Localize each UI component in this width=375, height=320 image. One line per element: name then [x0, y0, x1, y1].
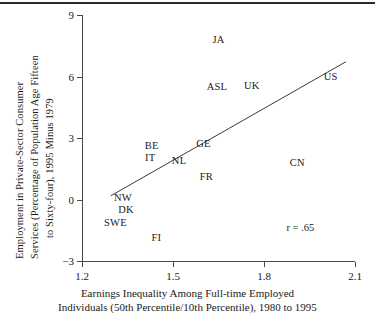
data-point-label-uk: UK	[244, 79, 260, 90]
y-tick-label: 3	[69, 132, 75, 144]
data-point-label-nl: NL	[172, 154, 186, 165]
x-tick-label: 2.1	[348, 270, 362, 282]
x-tick-label: 1.2	[75, 270, 89, 282]
data-point-label-nw: NW	[114, 192, 132, 203]
y-axis-title-line-1: Employment in Private-Sector Consumer	[15, 82, 26, 259]
x-axis-line	[82, 261, 355, 262]
x-tick-mark	[173, 262, 174, 267]
x-tick-mark	[82, 262, 83, 267]
x-tick-mark	[264, 262, 265, 267]
y-tick-label: −3	[62, 255, 74, 267]
y-axis-title-line-3: to Sixty-four), 1995 Minus 1979	[45, 98, 56, 238]
x-tick-label: 1.5	[166, 270, 180, 282]
scatter-plot-figure: Employment in Private-Sector Consumer Se…	[0, 0, 375, 320]
x-axis-title: Earnings Inequality Among Full-time Empl…	[0, 286, 375, 314]
data-point-label-ge: GE	[196, 138, 210, 149]
data-point-label-fi: FI	[151, 232, 161, 243]
y-tick-label: 6	[69, 71, 75, 83]
data-point-label-swe: SWE	[104, 217, 127, 228]
plot-area: 9630−3 1.21.51.82.1 JAASLUKUSGEBEITNLFRC…	[82, 15, 355, 261]
data-point-label-ja: JA	[212, 33, 224, 44]
data-point-label-it: IT	[145, 152, 155, 163]
top-divider-rule	[0, 2, 375, 4]
y-tick-label: 0	[69, 194, 75, 206]
data-point-label-dk: DK	[118, 203, 134, 214]
data-point-label-fr: FR	[200, 170, 213, 181]
data-point-label-us: US	[324, 71, 338, 82]
y-tick-label: 9	[69, 9, 75, 21]
x-tick-mark	[355, 262, 356, 267]
y-axis-title: Employment in Private-Sector Consumer Se…	[2, 10, 56, 260]
correlation-annotation: r = .65	[286, 222, 314, 233]
x-tick-label: 1.8	[257, 270, 271, 282]
data-point-label-be: BE	[145, 140, 159, 151]
data-point-label-asl: ASL	[207, 80, 227, 91]
data-point-label-cn: CN	[290, 157, 305, 168]
x-axis-title-line-1: Earnings Inequality Among Full-time Empl…	[0, 286, 375, 300]
x-axis-title-line-2: Individuals (50th Percentile/10th Percen…	[0, 300, 375, 314]
y-axis-title-line-2: Services (Percentage of Population Age F…	[30, 55, 41, 259]
